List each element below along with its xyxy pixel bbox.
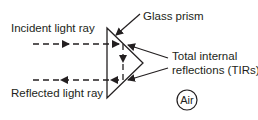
glass-prism-label: Glass prism (143, 10, 204, 22)
tir-pointer-upper (128, 45, 168, 58)
internal-arrowhead-icon (119, 55, 127, 63)
prism-diagram: Glass prism Incident light ray Reflected… (0, 0, 258, 120)
glass-prism-pointer (116, 14, 140, 35)
incident-ray-label: Incident light ray (11, 22, 95, 34)
tir-label-line1: Total internal (172, 50, 237, 62)
tir-label-line2: reflections (TIRs) (172, 64, 258, 76)
reflected-arrowhead-icon (60, 76, 68, 84)
glass-prism-shape (107, 28, 143, 98)
incident-entry-arrowhead-icon (112, 40, 120, 48)
reflected-ray-label: Reflected light ray (11, 87, 103, 99)
air-label: Air (180, 94, 194, 106)
tir-pointer-lower (128, 68, 168, 80)
reflected-exit-arrowhead-icon (110, 76, 118, 84)
incident-arrowhead-icon (62, 40, 70, 48)
